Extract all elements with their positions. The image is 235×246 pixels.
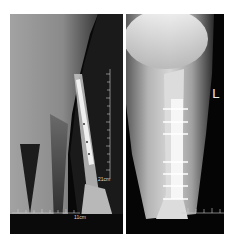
lateral-xray-image xyxy=(10,14,123,234)
implant-plate xyxy=(171,99,183,199)
left-xray-panel: 21cm 11cm xyxy=(10,14,123,234)
horizontal-ruler-label: 11cm xyxy=(74,214,86,220)
right-xray-panel: L xyxy=(126,14,224,234)
side-marker: L xyxy=(212,86,219,101)
vertical-ruler-label: 21cm xyxy=(98,176,110,182)
ap-xray-image xyxy=(126,14,224,234)
